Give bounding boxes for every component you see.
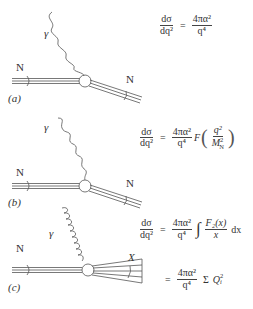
equation-c-simplified: = 4πα²q⁴ Σ Q2i: [165, 268, 223, 290]
panel-label-a: (a): [8, 93, 21, 104]
incoming-particle-label-c: N: [16, 243, 24, 254]
equation-a: dσdq² = 4πα²q⁴: [157, 14, 214, 36]
equation-b: dσdq² = 4πα²q⁴ F ( q²M2N ): [137, 125, 236, 151]
photon-wave-b: [58, 118, 86, 180]
boson-label-a: γ: [44, 28, 48, 39]
equation-c: dσdq² = 4πα²q⁴ ∫ F₂(x)x dx: [137, 218, 241, 240]
diagram-c: [12, 208, 142, 283]
photon-coil-c: [62, 208, 83, 261]
outgoing-particle-label-c: X: [128, 252, 135, 263]
incoming-particle-label-b: N: [16, 167, 24, 178]
panel-label-c: (c): [8, 282, 20, 293]
outgoing-particle-label-b: N: [126, 178, 134, 189]
incoming-particle-label-a: N: [16, 62, 24, 73]
feynman-diagrams: [0, 0, 253, 309]
boson-label-b: γ: [44, 122, 48, 133]
diagram-b: [12, 118, 142, 208]
panel-label-b: (b): [8, 197, 21, 208]
photon-wave-a: [49, 12, 84, 76]
boson-label-c: γ: [49, 228, 53, 239]
outgoing-particle-label-a: N: [126, 74, 134, 85]
diagram-a: [12, 12, 142, 103]
